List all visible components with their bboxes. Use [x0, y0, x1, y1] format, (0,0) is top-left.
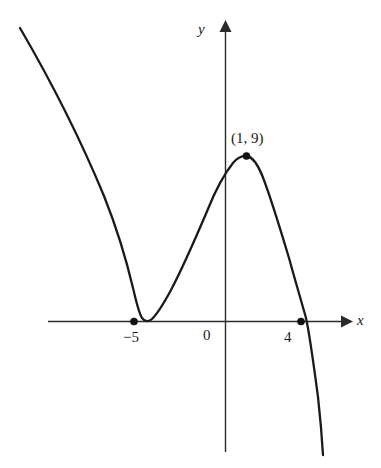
x-tick-label-neg5: −5	[123, 330, 139, 345]
x-axis-arrow-icon	[341, 316, 353, 328]
cubic-curve	[20, 28, 323, 455]
root-point-4	[297, 318, 304, 325]
origin-label: 0	[203, 328, 211, 343]
x-tick-label-4: 4	[284, 330, 292, 345]
y-axis-label: y	[198, 22, 205, 37]
y-axis-arrow-icon	[220, 20, 232, 32]
maximum-point-label: (1, 9)	[231, 131, 264, 146]
graph-canvas	[0, 0, 381, 468]
maximum-point	[243, 152, 250, 159]
x-axis-label: x	[357, 313, 364, 328]
graph-figure: y x 0 −5 4 (1, 9)	[0, 0, 381, 468]
root-point-neg5	[130, 318, 137, 325]
